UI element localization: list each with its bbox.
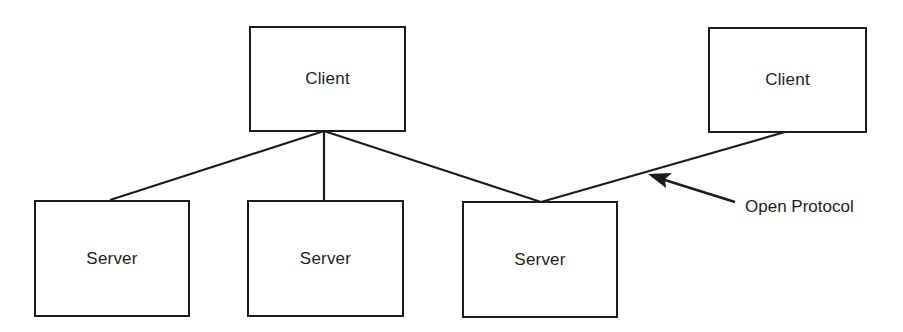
server-label-3: Server xyxy=(514,250,565,270)
client-server-diagram: Client Client Server Server Server Open … xyxy=(0,0,903,332)
server-box-1: Server xyxy=(34,200,190,317)
edge-client1-server3 xyxy=(324,131,541,202)
open-protocol-label: Open Protocol xyxy=(745,197,854,217)
server-box-2: Server xyxy=(247,200,404,317)
client-box-1: Client xyxy=(249,26,406,132)
client-label-2: Client xyxy=(765,70,810,90)
client-label-1: Client xyxy=(305,69,350,89)
arrow-icon xyxy=(648,173,735,202)
edge-client1-server1 xyxy=(110,131,324,200)
server-label-2: Server xyxy=(300,249,351,269)
server-label-1: Server xyxy=(86,249,137,269)
edge-client2-server3 xyxy=(541,132,785,202)
server-box-3: Server xyxy=(462,201,618,318)
client-box-2: Client xyxy=(708,27,867,133)
